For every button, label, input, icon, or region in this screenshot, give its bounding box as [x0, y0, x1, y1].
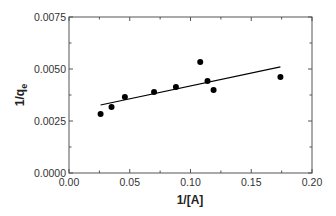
regression-line [101, 67, 281, 105]
plot-frame [69, 17, 312, 173]
data-point [98, 111, 104, 117]
y-axis-ticks: 0.00000.00250.00500.0075 [34, 11, 312, 179]
y-axis-label-main: 1/q [13, 89, 27, 106]
y-tick-label: 0.0025 [34, 115, 66, 127]
y-tick-label: 0.0050 [34, 63, 66, 75]
data-points [98, 59, 284, 117]
x-tick-label: 0.05 [120, 176, 141, 188]
data-point [109, 104, 115, 110]
data-point [211, 87, 217, 93]
data-point [277, 74, 283, 80]
y-tick-label: 0.0000 [34, 167, 66, 179]
fit-line [101, 67, 281, 105]
x-tick-label: 0.10 [180, 176, 201, 188]
plot-border [69, 17, 312, 173]
y-tick-label: 0.0075 [34, 11, 66, 23]
chart: 0.000.050.100.150.20 0.00000.00250.00500… [0, 0, 336, 216]
data-point [197, 59, 203, 65]
x-axis-label: 1/[A] [177, 193, 204, 207]
data-point [173, 84, 179, 90]
y-axis-label-subscript: e [19, 84, 29, 89]
data-point [151, 89, 157, 95]
x-tick-label: 0.15 [241, 176, 262, 188]
x-tick-label: 0.20 [302, 176, 323, 188]
data-point [122, 94, 128, 100]
y-axis-label: 1/qe [13, 84, 29, 106]
x-axis-ticks: 0.000.050.100.150.20 [59, 17, 323, 188]
data-point [205, 78, 211, 84]
